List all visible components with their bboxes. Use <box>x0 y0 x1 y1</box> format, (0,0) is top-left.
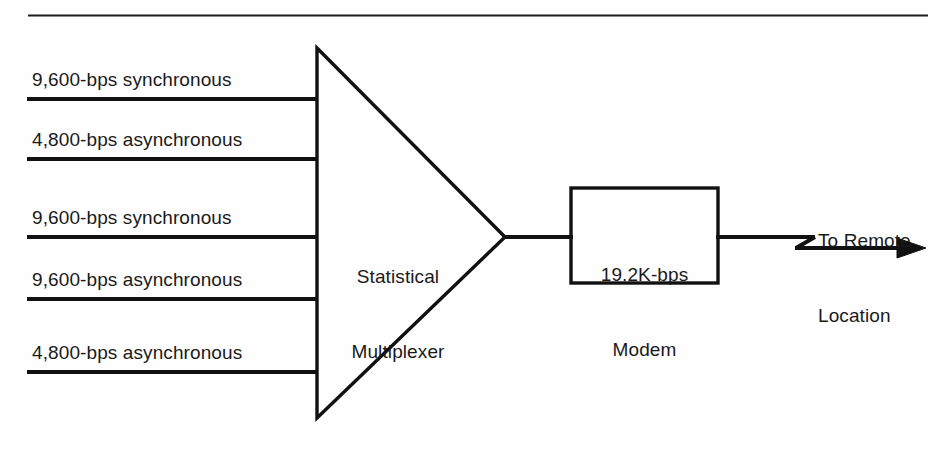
input-label-1: 9,600-bps synchronous <box>32 68 232 91</box>
modem-label: 19.2K-bps Modem <box>571 212 718 412</box>
input-label-4: 9,600-bps asynchronous <box>32 268 242 291</box>
input-label-3: 9,600-bps synchronous <box>32 206 232 229</box>
modem-label-line-1: 19.2K-bps <box>571 262 718 287</box>
multiplexer-label-line-2: Multiplexer <box>333 339 463 364</box>
output-label-line-2: Location <box>818 303 948 328</box>
output-label-line-1: To Remote <box>818 228 948 253</box>
input-label-2: 4,800-bps asynchronous <box>32 128 242 151</box>
diagram-canvas: 9,600-bps synchronous 4,800-bps asynchro… <box>0 0 952 450</box>
input-label-5: 4,800-bps asynchronous <box>32 341 242 364</box>
modem-label-line-2: Modem <box>571 337 718 362</box>
multiplexer-label-line-1: Statistical <box>333 264 463 289</box>
output-destination-label: To Remote Location <box>818 178 948 378</box>
multiplexer-label: Statistical Multiplexer <box>333 214 463 414</box>
